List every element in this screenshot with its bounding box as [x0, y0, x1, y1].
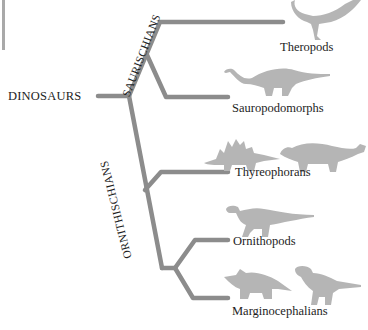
root-label-dinosaurs: DINOSAURS: [8, 89, 81, 104]
leaf-label-sauropodomorphs: Sauropodomorphs: [232, 101, 324, 116]
branch-ornithischians: [129, 96, 162, 268]
branch-marginocephalians: [175, 268, 228, 298]
leaf-label-ornithopods: Ornithopods: [233, 234, 296, 249]
leaf-label-marginocephalians: Marginocephalians: [232, 304, 328, 319]
branch-ornithopods: [175, 240, 228, 268]
theropod-icon: [283, 0, 363, 42]
triceratops-icon: [222, 267, 294, 301]
leaf-label-thyreophorans: Thyreophorans: [235, 165, 311, 180]
pachycephalosaurus-icon: [293, 265, 363, 307]
branch-sauropodomorphs: [147, 55, 228, 97]
leaf-label-theropods: Theropods: [280, 40, 333, 55]
sauropod-icon: [222, 62, 332, 98]
branch-thyreophorans: [145, 172, 228, 190]
